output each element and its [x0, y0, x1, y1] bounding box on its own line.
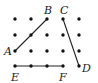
grid-dot — [61, 64, 64, 67]
grid-dot — [45, 33, 48, 36]
grid-dot — [13, 49, 16, 52]
segments — [15, 19, 79, 66]
label-d: D — [81, 62, 91, 75]
grid-dot — [13, 64, 16, 67]
grid-dot — [77, 33, 80, 36]
grid-dot — [45, 17, 48, 20]
grid-dot — [77, 64, 80, 67]
label-a: A — [3, 45, 12, 58]
grid-dot — [29, 17, 32, 20]
grid-dot — [29, 64, 32, 67]
label-b: B — [43, 4, 52, 17]
label-e: E — [10, 71, 19, 83]
grid-dot — [45, 64, 48, 67]
grid-dot — [61, 49, 64, 52]
grid-dot — [29, 49, 32, 52]
grid-dot — [13, 17, 16, 20]
segment-cd — [63, 19, 79, 66]
grid-dot — [77, 49, 80, 52]
grid-dot — [61, 17, 64, 20]
grid-dot — [29, 33, 32, 36]
label-c: C — [60, 4, 69, 17]
dot-grid-diagram: A B C D E F — [0, 0, 98, 83]
point-labels: A B C D E F — [3, 4, 91, 83]
grid-dot — [13, 33, 16, 36]
grid-dot — [77, 17, 80, 20]
label-f: F — [58, 71, 67, 83]
grid-dot — [45, 49, 48, 52]
grid-dot — [61, 33, 64, 36]
